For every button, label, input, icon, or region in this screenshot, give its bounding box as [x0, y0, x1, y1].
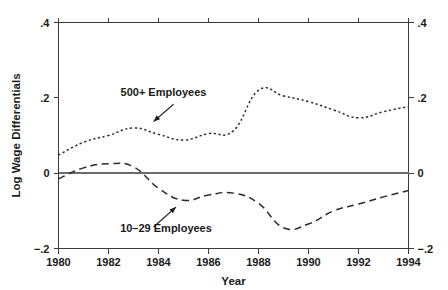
x-tick-label-1984: 1984 — [146, 256, 171, 268]
series-annotation-label-500-plus-employees: 500+ Employees — [121, 86, 207, 98]
x-tick-label-1980: 1980 — [46, 256, 70, 268]
y-tick-label-right-2: .2 — [418, 92, 427, 104]
series-annotation-label-10-29-employees: 10–29 Employees — [120, 222, 212, 234]
y-tick-label-right-1: 0 — [418, 167, 424, 179]
x-axis-title: Year — [221, 275, 246, 287]
x-tick-label-1994: 1994 — [396, 256, 421, 268]
log-wage-differentials-chart: 19801982198419861988199019921994−.2−.200… — [0, 0, 448, 290]
y-tick-label-right-3: .4 — [418, 17, 428, 29]
y-tick-label-left-3: .4 — [40, 17, 50, 29]
x-tick-label-1992: 1992 — [346, 256, 370, 268]
x-tick-label-1990: 1990 — [296, 256, 320, 268]
y-tick-label-left-2: .2 — [40, 92, 49, 104]
x-tick-label-1982: 1982 — [96, 256, 120, 268]
x-tick-label-1988: 1988 — [246, 256, 270, 268]
chart-figure: 19801982198419861988199019921994−.2−.200… — [0, 0, 448, 290]
y-tick-label-left-0: −.2 — [34, 243, 50, 255]
y-axis-title: Log Wage Differentials — [10, 73, 22, 197]
y-tick-label-left-1: 0 — [43, 167, 49, 179]
series-line-500-plus-employees — [59, 88, 409, 155]
x-tick-label-1986: 1986 — [196, 256, 220, 268]
plot-frame — [59, 23, 409, 249]
y-tick-label-right-0: −.2 — [418, 243, 434, 255]
